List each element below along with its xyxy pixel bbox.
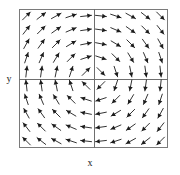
vector-field-figure: y x [0,0,180,175]
y-axis-label: y [0,74,18,84]
x-axis-label: x [0,158,180,168]
vector-field-canvas [0,0,180,175]
plot-frame [20,10,168,148]
plot-border [20,10,168,148]
